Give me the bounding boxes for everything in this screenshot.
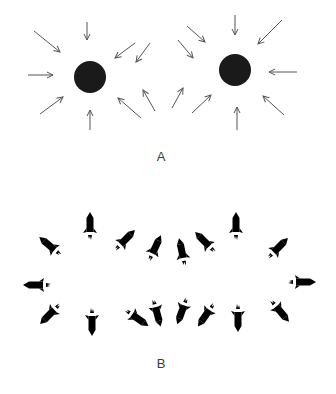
arrow-icon (187, 26, 205, 42)
rocket-icon (231, 304, 245, 332)
arrow-icon (136, 43, 150, 62)
rocket-icon (263, 233, 293, 263)
rocket-icon (229, 212, 243, 240)
rocket-icon (192, 300, 220, 331)
sphere-2 (219, 54, 251, 86)
rocket-icon (171, 295, 194, 326)
arrow-icon (40, 97, 63, 114)
rocket-icon (35, 232, 65, 261)
arrow-icon (115, 43, 135, 58)
arrow-icon (258, 20, 282, 44)
rocket-icon (23, 278, 51, 292)
arrow-icon (263, 96, 284, 115)
arrow-icon (118, 98, 141, 118)
diagram-canvas (0, 0, 336, 394)
rocket-icon (172, 237, 192, 267)
rocket-icon (85, 308, 99, 336)
arrow-icon (172, 88, 183, 108)
arrow-icon (143, 90, 155, 111)
rocket-icon (122, 304, 153, 332)
rocket-icon (143, 232, 168, 263)
sphere-1 (74, 61, 106, 93)
rocket-icon (35, 299, 65, 329)
rocket-icon (288, 275, 316, 289)
rocket-icon (110, 225, 140, 255)
rocket-icon (190, 227, 220, 257)
rocket-icon (266, 296, 295, 326)
panel-b-label: B (157, 356, 166, 371)
panel-a-implosion (28, 15, 297, 130)
arrow-icon (178, 40, 193, 58)
rocket-icon (147, 298, 168, 329)
arrow-icon (34, 31, 60, 52)
panel-b-rockets (23, 212, 316, 336)
panel-a-label: A (157, 149, 166, 164)
arrow-icon (192, 95, 211, 113)
rocket-icon (83, 212, 97, 240)
